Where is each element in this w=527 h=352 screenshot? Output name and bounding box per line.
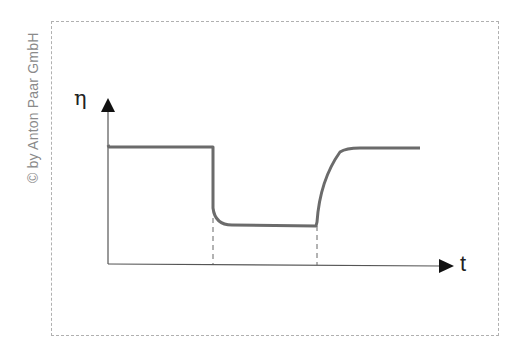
x-axis-arrow-icon [439, 259, 454, 273]
y-axis-arrow-icon [101, 98, 115, 112]
viscosity-curve [108, 145, 420, 226]
x-axis [108, 264, 440, 266]
y-axis-label: η [74, 86, 87, 110]
x-axis-label: t [460, 251, 466, 277]
thixotropy-chart [0, 0, 527, 352]
